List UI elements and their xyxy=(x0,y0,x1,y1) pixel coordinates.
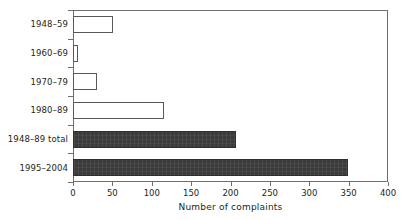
y-axis-tick xyxy=(68,153,73,154)
bar-1 xyxy=(73,16,113,33)
y-category-label-1: 1948–59 xyxy=(31,19,68,29)
bar-row xyxy=(73,73,388,90)
bars-layer xyxy=(73,10,388,182)
bar-5 xyxy=(73,131,236,148)
x-axis-tick xyxy=(231,182,232,186)
x-axis-tick-label-7: 350 xyxy=(329,188,369,198)
x-axis-tick xyxy=(191,182,192,186)
y-axis-tick xyxy=(68,125,73,126)
x-axis-tick-label-6: 300 xyxy=(289,188,329,198)
x-axis-tick-label-4: 200 xyxy=(211,188,251,198)
bar-row xyxy=(73,102,388,119)
y-axis-tick xyxy=(68,10,73,11)
x-axis-tick xyxy=(388,182,389,186)
y-category-label-2: 1960–69 xyxy=(31,48,68,58)
x-axis-tick xyxy=(309,182,310,186)
y-axis-tick xyxy=(68,67,73,68)
x-axis-tick-label-8: 400 xyxy=(368,188,404,198)
bar-row xyxy=(73,159,388,176)
bar-row xyxy=(73,16,388,33)
complaints-bar-chart: 1948–591960–691970–791980–891948–89 tota… xyxy=(0,0,404,220)
x-axis-tick-label-2: 100 xyxy=(132,188,172,198)
y-category-label-3: 1970–79 xyxy=(31,77,68,87)
x-axis-tick xyxy=(73,182,74,186)
x-axis-tick-label-3: 150 xyxy=(171,188,211,198)
bar-2 xyxy=(73,45,78,62)
x-axis-tick-label-1: 50 xyxy=(92,188,132,198)
y-category-label-4: 1980–89 xyxy=(31,105,68,115)
x-axis-tick xyxy=(270,182,271,186)
bar-6 xyxy=(73,159,348,176)
y-category-label-5: 1948–89 total xyxy=(8,134,68,144)
x-axis-tick-label-0: 0 xyxy=(53,188,93,198)
y-category-label-6: 1995–2004 xyxy=(20,163,68,173)
bar-3 xyxy=(73,73,97,90)
bar-row xyxy=(73,131,388,148)
bar-row xyxy=(73,45,388,62)
bar-4 xyxy=(73,102,164,119)
x-axis-tick xyxy=(152,182,153,186)
x-axis-title: Number of complaints xyxy=(73,202,388,212)
y-axis-tick xyxy=(68,96,73,97)
x-axis-tick-label-5: 250 xyxy=(250,188,290,198)
x-axis-tick xyxy=(349,182,350,186)
x-axis-tick xyxy=(112,182,113,186)
y-axis-tick xyxy=(68,39,73,40)
